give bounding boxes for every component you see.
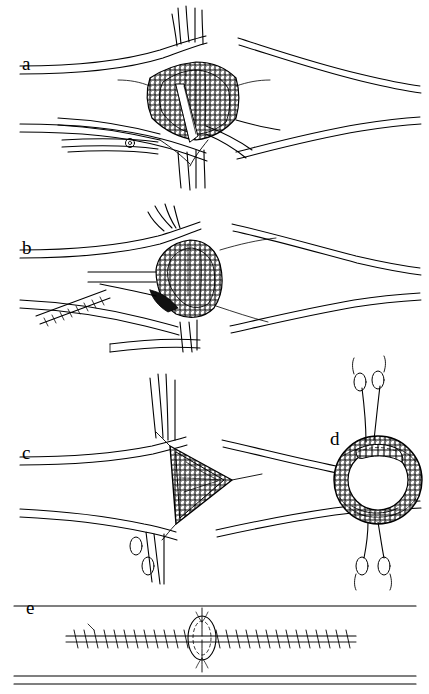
panel-d-drawing [334, 356, 422, 590]
figure-illustration [0, 0, 429, 694]
panel-label-d: d [330, 429, 340, 448]
panel-e-drawing [14, 606, 416, 684]
panel-label-e: e [26, 598, 34, 617]
panel-b-drawing [20, 204, 421, 352]
panel-a-drawing [20, 6, 421, 190]
figure-panel-container: a b c d e [0, 0, 429, 694]
panel-label-a: a [22, 54, 30, 73]
panel-label-c: c [22, 443, 30, 462]
panel-label-b: b [22, 238, 32, 257]
